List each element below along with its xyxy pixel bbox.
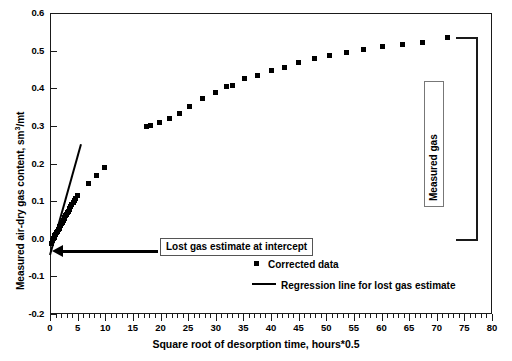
x-tick-minor	[144, 314, 145, 318]
x-tick-minor	[249, 314, 250, 318]
data-point	[75, 193, 80, 198]
x-tick-minor	[277, 314, 278, 318]
measured-gas-bracket	[456, 37, 478, 241]
y-axis-title-main: Measured air-dry gas content, sm	[15, 131, 26, 291]
data-point	[86, 181, 91, 186]
data-point	[361, 47, 366, 52]
x-tick-minor	[442, 314, 443, 318]
x-tick-minor	[94, 314, 95, 318]
y-tick-mark	[50, 88, 57, 89]
x-tick-minor	[310, 314, 311, 318]
y-tick-label: 0.5	[4, 45, 44, 56]
x-tick-minor	[393, 314, 394, 318]
x-tick-minor	[227, 314, 228, 318]
data-point	[400, 42, 405, 47]
x-tick-minor	[194, 314, 195, 318]
x-tick-mark	[437, 314, 438, 321]
x-tick-minor	[398, 314, 399, 318]
x-tick-minor	[420, 314, 421, 318]
x-tick-minor	[149, 314, 150, 318]
x-tick-label: 50	[311, 322, 341, 333]
x-tick-label: 15	[118, 322, 148, 333]
x-tick-label: 35	[228, 322, 258, 333]
x-tick-minor	[127, 314, 128, 318]
x-tick-mark	[326, 314, 327, 321]
x-tick-mark	[243, 314, 244, 321]
data-point	[327, 53, 332, 58]
x-tick-minor	[332, 314, 333, 318]
data-point	[242, 76, 247, 81]
x-tick-minor	[221, 314, 222, 318]
x-tick-mark	[464, 314, 465, 321]
data-point	[213, 90, 218, 95]
x-tick-mark	[78, 314, 79, 321]
x-tick-mark	[409, 314, 410, 321]
x-tick-minor	[387, 314, 388, 318]
data-point	[255, 73, 260, 78]
x-tick-minor	[470, 314, 471, 318]
x-tick-minor	[376, 314, 377, 318]
x-tick-minor	[448, 314, 449, 318]
x-tick-label: 75	[449, 322, 479, 333]
legend-item-corrected-data: Corrected data	[252, 258, 456, 279]
x-axis-title: Square root of desorption time, hours*0.…	[0, 338, 512, 350]
x-tick-minor	[72, 314, 73, 318]
data-point	[224, 84, 229, 89]
data-point	[312, 56, 317, 61]
y-tick-label: -0.2	[4, 308, 44, 319]
x-tick-minor	[67, 314, 68, 318]
data-point	[282, 65, 287, 70]
line-segment-icon	[252, 283, 276, 286]
x-tick-minor	[359, 314, 360, 318]
x-tick-label: 30	[201, 322, 231, 333]
x-tick-minor	[172, 314, 173, 318]
x-tick-minor	[205, 314, 206, 318]
x-tick-minor	[122, 314, 123, 318]
y-tick-mark	[50, 201, 57, 202]
x-tick-mark	[382, 314, 383, 321]
data-point	[344, 50, 349, 55]
data-point	[102, 165, 107, 170]
x-tick-minor	[337, 314, 338, 318]
x-tick-minor	[89, 314, 90, 318]
square-marker-icon	[254, 261, 259, 266]
x-tick-minor	[177, 314, 178, 318]
data-point	[187, 104, 192, 109]
lost-gas-arrow-head	[52, 245, 63, 257]
x-tick-minor	[61, 314, 62, 318]
x-tick-minor	[348, 314, 349, 318]
x-tick-minor	[199, 314, 200, 318]
lost-gas-arrow-shaft	[62, 250, 158, 253]
chart-legend: Corrected data Regression line for lost …	[252, 258, 456, 300]
x-tick-minor	[426, 314, 427, 318]
x-tick-minor	[288, 314, 289, 318]
x-tick-minor	[304, 314, 305, 318]
x-tick-label: 45	[284, 322, 314, 333]
x-tick-minor	[254, 314, 255, 318]
x-tick-minor	[56, 314, 57, 318]
y-tick-mark	[50, 13, 57, 14]
x-tick-minor	[111, 314, 112, 318]
x-tick-minor	[431, 314, 432, 318]
x-tick-mark	[161, 314, 162, 321]
x-tick-minor	[453, 314, 454, 318]
x-tick-label: 20	[146, 322, 176, 333]
x-tick-minor	[232, 314, 233, 318]
x-tick-minor	[321, 314, 322, 318]
x-tick-minor	[370, 314, 371, 318]
x-tick-mark	[105, 314, 106, 321]
data-point	[445, 35, 450, 40]
x-tick-label: 0	[35, 322, 65, 333]
legend-item-regression-line: Regression line for lost gas estimate	[252, 279, 456, 300]
x-tick-mark	[354, 314, 355, 321]
x-tick-minor	[486, 314, 487, 318]
x-tick-label: 10	[90, 322, 120, 333]
x-tick-minor	[315, 314, 316, 318]
x-tick-mark	[271, 314, 272, 321]
y-tick-mark	[50, 164, 57, 165]
y-tick-mark	[50, 126, 57, 127]
x-tick-minor	[238, 314, 239, 318]
x-tick-label: 55	[339, 322, 369, 333]
x-tick-minor	[166, 314, 167, 318]
x-tick-minor	[83, 314, 84, 318]
